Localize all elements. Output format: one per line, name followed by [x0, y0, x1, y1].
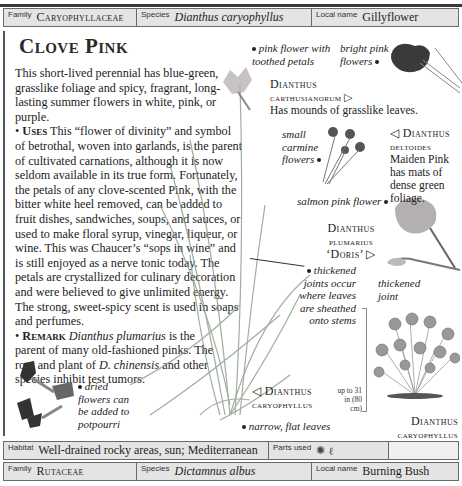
annotation-text: pink flower with toothed petals	[252, 42, 330, 67]
local-name-label: Local name	[316, 10, 357, 19]
label-habit: Dianthus caryophyllus	[378, 415, 458, 441]
annotation-text: narrow, flat leaves	[249, 420, 331, 432]
family-label: Family	[8, 464, 32, 473]
dried-flowers-illustration	[12, 358, 82, 433]
annotation-dried-flowers: dried flowers can be added to potpourri	[78, 380, 138, 430]
leader-dot	[307, 269, 311, 273]
species-name: ◁ Dianthus	[390, 127, 460, 140]
annotation-text: thickened joints occur where leaves are …	[299, 264, 356, 326]
annotation-text: small carmine flowers	[282, 128, 318, 165]
parts-used-label: Parts used	[273, 443, 311, 452]
species-cell: Species Dictamnus albus	[137, 463, 312, 480]
species-value: Dianthus caryophyllus	[174, 10, 283, 25]
annotation-pink-flower: pink flower with toothed petals	[252, 42, 342, 67]
habitat-value: Well-drained rocky areas, sun; Mediterra…	[38, 443, 257, 458]
flower-icon: ✺	[316, 444, 325, 457]
species-label: Species	[141, 10, 169, 19]
species-label: Species	[141, 464, 169, 473]
leader-dot	[78, 385, 82, 389]
annotation-text: dried flowers can be added to potpourri	[78, 380, 129, 430]
annotation-text: salmon pink flower	[297, 195, 381, 207]
next-entry-info-bar: Family Rutaceae Species Dictamnus albus …	[3, 462, 459, 481]
local-name-value: Gillyflower	[362, 10, 418, 25]
family-label: Family	[8, 10, 32, 19]
annotation-text: thickened joint	[378, 277, 420, 302]
species-cell: Species Dianthus caryophyllus	[137, 9, 312, 26]
uses-heading: Uses	[22, 124, 47, 138]
local-name-value: Burning Bush	[362, 464, 429, 479]
header-info-bar: Family Caryophyllaceae Species Dianthus …	[3, 8, 459, 27]
annotation-salmon-pink: salmon pink flower	[297, 195, 397, 208]
species-name: deltoides	[390, 140, 460, 153]
species-name: ◁ Dianthus	[252, 385, 332, 398]
family-cell: Family Rutaceae	[4, 463, 137, 480]
species-name: Dianthus	[270, 78, 460, 91]
leader-dot	[375, 60, 379, 64]
annotation-thickened-joint: thickened joint	[378, 277, 438, 302]
label-deltoides: ◁ Dianthus deltoides Maiden Pink has mat…	[390, 127, 460, 205]
species-name: ‘Doris’ ▷	[311, 248, 391, 261]
local-name-cell: Local name Gillyflower	[312, 9, 458, 26]
family-value: Rutaceae	[37, 464, 84, 479]
annotation-small-carmine: small carmine flowers	[282, 128, 332, 166]
species-name: Dianthus	[378, 415, 458, 428]
habitat-cell: Habitat Well-drained rocky areas, sun; M…	[4, 442, 269, 459]
family-value: Caryophyllaceae	[37, 10, 124, 25]
empty-cell	[389, 442, 458, 459]
leader-dot	[384, 200, 388, 204]
caryophyllus-habit-illustration	[370, 310, 460, 400]
species-name: carthusianorum ▷	[270, 91, 460, 104]
species-value: Dictamnus albus	[174, 464, 255, 479]
page-title: Clove Pink	[19, 34, 128, 59]
annotation-text: bright pink flowers	[340, 42, 389, 67]
family-cell: Family Caryophyllaceae	[4, 9, 137, 26]
annotation-narrow-leaves: narrow, flat leaves	[242, 420, 362, 433]
local-name-cell: Local name Burning Bush	[312, 463, 458, 480]
label-caryophyllus: ◁ Dianthus caryophyllus	[252, 385, 332, 411]
species-name: caryophyllus	[252, 398, 332, 411]
top-rule	[0, 4, 462, 7]
local-name-label: Local name	[316, 464, 357, 473]
leader-dot	[242, 425, 246, 429]
species-description: Maiden Pink has mats of dense green foli…	[390, 153, 460, 205]
height-note: up to 31 in (80 cm)	[334, 386, 362, 413]
parts-used-cell: Parts used ✺ ℓ	[269, 442, 389, 459]
leaf-stem-icon: ℓ	[328, 445, 333, 457]
remark-heading: Remark	[22, 329, 65, 343]
annotation-thickened-joints: thickened joints occur where leaves are …	[296, 264, 356, 327]
annotation-bright-pink: bright pink flowers	[340, 42, 402, 67]
habitat-bar: Habitat Well-drained rocky areas, sun; M…	[3, 441, 459, 460]
species-name: Dianthus	[311, 222, 391, 235]
pink-flower-illustration	[218, 62, 258, 112]
label-plumarius: Dianthus plumarius ‘Doris’ ▷	[311, 222, 391, 261]
label-carthusianorum: Dianthus carthusianorum ▷ Has mounds of …	[270, 78, 460, 117]
habitat-label: Habitat	[8, 443, 33, 452]
leader-dot	[252, 47, 256, 51]
species-description: Has mounds of grasslike leaves.	[270, 104, 460, 117]
leader-dot	[317, 158, 321, 162]
species-name: caryophyllus	[378, 428, 458, 441]
height-bracket	[362, 308, 367, 412]
